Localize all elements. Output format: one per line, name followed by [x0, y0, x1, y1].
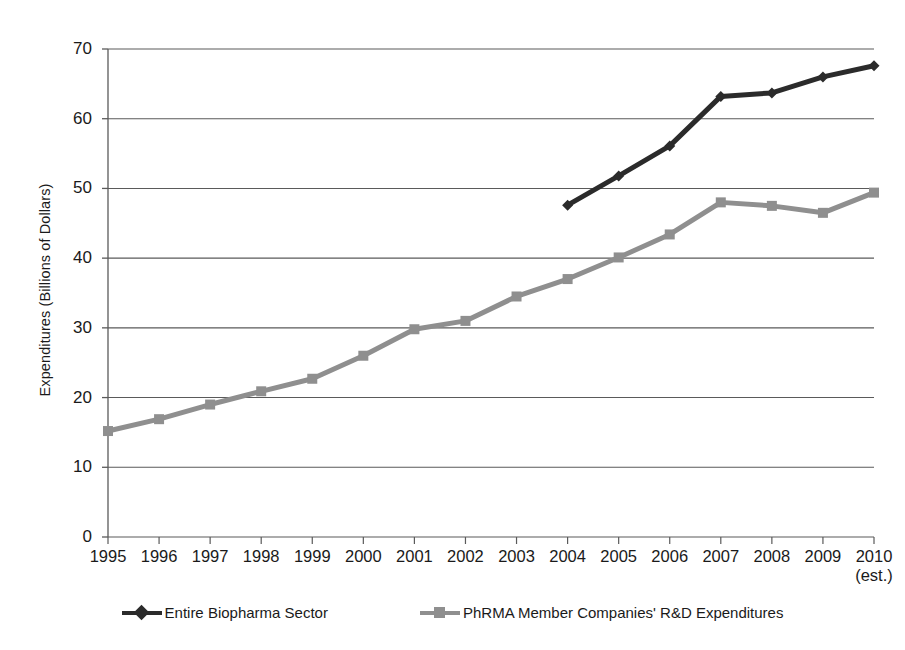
x-axis-tick-labels: 1995199619971998199920002001200220032004… [0, 0, 905, 650]
legend-square-icon [420, 606, 460, 620]
chart-container: Expenditures (Billions of Dollars) 70605… [0, 0, 905, 650]
chart-legend: Entire Biopharma SectorPhRMA Member Comp… [0, 604, 905, 621]
legend-entry-0[interactable]: Entire Biopharma Sector [122, 604, 328, 621]
legend-diamond-icon [122, 606, 162, 620]
legend-label: PhRMA Member Companies' R&D Expenditures [463, 604, 784, 621]
legend-entry-1[interactable]: PhRMA Member Companies' R&D Expenditures [420, 604, 784, 621]
x-axis-tick-label: 2010 (est.) [834, 547, 905, 585]
legend-label: Entire Biopharma Sector [165, 604, 328, 621]
